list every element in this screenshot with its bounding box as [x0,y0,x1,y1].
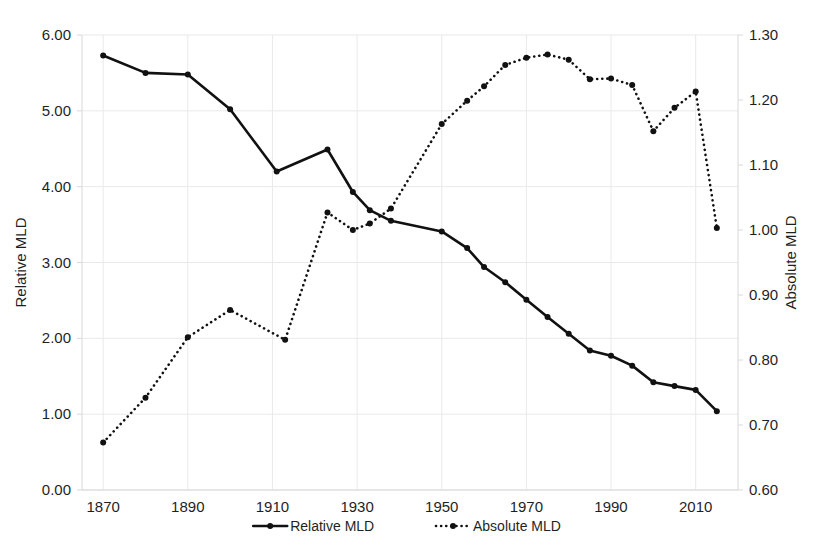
y-axis-tick-label: 3.00 [42,254,71,271]
x-axis-tick-label: 2010 [679,498,712,515]
series-marker [388,218,394,224]
y2-axis-tick-label: 1.00 [749,221,778,238]
x-axis-tick-label: 1950 [425,498,458,515]
chart-container: 0.001.002.003.004.005.006.00 0.600.700.8… [0,0,818,553]
x-axis-tick-label: 1890 [171,498,204,515]
series-marker [629,82,635,88]
series-marker [100,440,106,446]
series-marker [714,408,720,414]
y2-axis-tick-label: 1.30 [749,26,778,43]
series-marker [502,62,508,68]
legend-label-1: Relative MLD [290,518,374,534]
series-marker [650,379,656,385]
y-axis-tick-label: 6.00 [42,26,71,43]
series-marker [650,128,656,134]
series-marker [367,207,373,213]
series-marker [464,98,470,104]
series-marker [545,314,551,320]
series-marker [388,206,394,212]
series-marker [100,52,106,58]
series-marker [282,337,288,343]
y2-axis-tick-label: 0.80 [749,351,778,368]
series-marker [672,383,678,389]
series-marker [439,228,445,234]
series-marker [629,363,635,369]
y-axis-title: Relative MLD [12,217,29,307]
series-marker [142,70,148,76]
series-marker [367,221,373,227]
series-marker [587,76,593,82]
x-axis-tick-label: 1970 [510,498,543,515]
legend-marker-2 [450,523,456,529]
series-marker [672,105,678,111]
x-axis-tick-label: 1930 [340,498,373,515]
y2-axis-tick-label: 0.70 [749,416,778,433]
series-marker [566,331,572,337]
series-marker [523,55,529,61]
series-marker [274,169,280,175]
y-axis-tick-label: 4.00 [42,178,71,195]
series-marker [608,76,614,82]
series-marker [566,57,572,63]
series-marker [523,297,529,303]
y2-axis-tick-label: 1.10 [749,156,778,173]
series-marker [502,279,508,285]
series-marker [481,264,487,270]
y2-axis-tick-label: 1.20 [749,91,778,108]
series-marker [714,225,720,231]
series-marker [608,353,614,359]
y2-axis-tick-label: 0.60 [749,481,778,498]
series-marker [545,52,551,58]
series-marker [464,245,470,251]
legend-label-2: Absolute MLD [473,518,561,534]
series-marker [142,395,148,401]
series-marker [227,307,233,313]
y-axis-tick-label: 0.00 [42,481,71,498]
y-axis-tick-label: 2.00 [42,329,71,346]
series-marker [350,189,356,195]
line-chart: 0.001.002.003.004.005.006.00 0.600.700.8… [0,0,818,553]
series-marker [439,121,445,127]
series-marker [324,147,330,153]
x-axis-tick-label: 1990 [594,498,627,515]
x-axis-tick-label: 1870 [86,498,119,515]
y-axis-tick-label: 1.00 [42,405,71,422]
series-marker [481,83,487,89]
series-marker [350,227,356,233]
series-marker [227,106,233,112]
x-axis-tick-label: 1910 [256,498,289,515]
series-marker [693,89,699,95]
legend-marker-1 [267,523,273,529]
series-marker [185,334,191,340]
series-marker [693,387,699,393]
y2-axis-tick-label: 0.90 [749,286,778,303]
series-marker [185,71,191,77]
series-marker [324,209,330,215]
y2-axis-title: Absolute MLD [782,215,799,309]
series-marker [587,347,593,353]
y-axis-tick-label: 5.00 [42,102,71,119]
